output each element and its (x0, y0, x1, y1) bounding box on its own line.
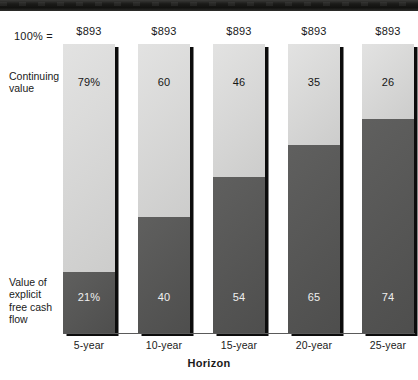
segment-value-label: 35 (288, 76, 340, 88)
bar-total-label: $893 (138, 25, 190, 37)
segment-continuing-value[interactable]: 46 (213, 44, 265, 177)
stacked-bar[interactable]: 26 74 (362, 44, 414, 333)
segment-value-label: 60 (138, 76, 190, 88)
x-axis-title: Horizon (0, 357, 418, 369)
bars-layer: $893 79% 21% $893 60 40 (0, 0, 418, 380)
segment-explicit-free-cash-flow[interactable]: 54 (213, 177, 265, 333)
bar-group-20-year: $893 35 65 (288, 44, 340, 333)
bar-group-10-year: $893 60 40 (138, 44, 190, 333)
segment-explicit-free-cash-flow[interactable]: 21% (63, 272, 115, 333)
x-axis-tick-5-year: 5-year (63, 339, 115, 351)
stacked-bar-chart: 100% = Continuing value Value of explici… (0, 0, 418, 380)
bar-group-15-year: $893 46 54 (213, 44, 265, 333)
segment-value-label: 65 (288, 291, 340, 303)
bar-group-5-year: $893 79% 21% (63, 44, 115, 333)
segment-value-label: 54 (213, 291, 265, 303)
bar-total-label: $893 (288, 25, 340, 37)
segment-explicit-free-cash-flow[interactable]: 40 (138, 217, 190, 333)
bar-total-label: $893 (213, 25, 265, 37)
segment-value-label: 79% (63, 76, 115, 88)
x-axis-tick-15-year: 15-year (213, 339, 265, 351)
segment-continuing-value[interactable]: 35 (288, 44, 340, 145)
segment-value-label: 46 (213, 76, 265, 88)
segment-explicit-free-cash-flow[interactable]: 65 (288, 145, 340, 333)
segment-value-label: 74 (362, 291, 414, 303)
segment-value-label: 26 (362, 76, 414, 88)
segment-continuing-value[interactable]: 26 (362, 44, 414, 119)
bar-total-label: $893 (362, 25, 414, 37)
segment-continuing-value[interactable]: 60 (138, 44, 190, 217)
x-axis-tick-20-year: 20-year (288, 339, 340, 351)
stacked-bar[interactable]: 46 54 (213, 44, 265, 333)
segment-value-label: 21% (63, 291, 115, 303)
segment-continuing-value[interactable]: 79% (63, 44, 115, 272)
stacked-bar[interactable]: 60 40 (138, 44, 190, 333)
bar-group-25-year: $893 26 74 (362, 44, 414, 333)
x-axis-tick-25-year: 25-year (362, 339, 414, 351)
segment-explicit-free-cash-flow[interactable]: 74 (362, 119, 414, 333)
bar-total-label: $893 (63, 25, 115, 37)
x-axis-line (63, 333, 415, 334)
stacked-bar[interactable]: 79% 21% (63, 44, 115, 333)
x-axis-tick-10-year: 10-year (138, 339, 190, 351)
stacked-bar[interactable]: 35 65 (288, 44, 340, 333)
segment-value-label: 40 (138, 291, 190, 303)
